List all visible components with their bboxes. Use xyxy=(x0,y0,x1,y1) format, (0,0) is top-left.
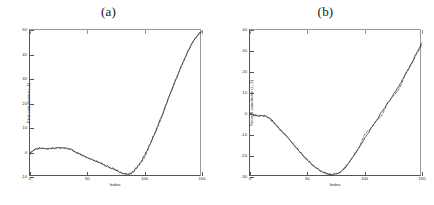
panel-b-y-tick xyxy=(250,156,254,157)
panel-a-x-tick-label: 100 xyxy=(141,177,148,181)
panel-a-series-fitted xyxy=(30,32,202,174)
panel-a-y-tick-label: 30 xyxy=(22,77,27,81)
panel-a-x-tick-top xyxy=(145,30,146,34)
panel-a-title: (a) xyxy=(0,4,217,20)
panel-a-x-tick-label: 150 xyxy=(199,177,206,181)
panel-a-x-tick-top xyxy=(202,30,203,34)
panel-a-x-tick-top xyxy=(30,30,31,34)
panel-b-y-tick xyxy=(250,93,254,94)
panel-a-y-tick-label: 50 xyxy=(22,28,27,32)
panel-b-x-tick-top xyxy=(365,30,366,34)
panel-b-y-tick-label: -30 xyxy=(241,175,247,179)
panel-b-y-axis-label: Second coordinate u(:,2) xyxy=(250,80,254,126)
panel-a-y-tick-label: 10 xyxy=(22,126,27,130)
panel-a-y-tick xyxy=(30,153,34,154)
panel-b: (b) Second coordinate u(:,2) Index 40302… xyxy=(217,0,434,205)
panel-a-y-tick xyxy=(30,79,34,80)
panel-a-y-tick xyxy=(30,55,34,56)
panel-a-y-tick xyxy=(30,128,34,129)
panel-b-x-tick-top xyxy=(307,30,308,34)
panel-b-plot-area: Second coordinate u(:,2) Index 403020100… xyxy=(249,29,421,176)
panel-b-y-tick-label: -10 xyxy=(241,133,247,137)
panel-b-y-tick xyxy=(250,51,254,52)
panel-b-x-tick-label: 150 xyxy=(419,177,426,181)
panel-a-curves xyxy=(30,30,202,177)
panel-a-y-axis-label: First coordinate u(:,1) xyxy=(27,83,31,123)
panel-a-y-tick-label: 0 xyxy=(25,150,27,154)
panel-a-x-tick-top xyxy=(87,30,88,34)
panel-b-x-axis-label: Index xyxy=(330,183,341,187)
figure-container: (a) First coordinate u(:,1) Index 504030… xyxy=(0,0,434,205)
panel-b-y-tick-label: 30 xyxy=(242,49,247,53)
panel-b-y-tick-label: -20 xyxy=(241,154,247,158)
panel-b-x-tick-label: 0 xyxy=(249,177,251,181)
panel-a: (a) First coordinate u(:,1) Index 504030… xyxy=(0,0,217,205)
panel-a-x-tick-label: 0 xyxy=(29,177,31,181)
panel-a-y-tick-label: -10 xyxy=(21,175,27,179)
panel-a-x-tick-label: 50 xyxy=(85,177,90,181)
panel-a-y-tick-label: 40 xyxy=(22,52,27,56)
panel-b-x-tick-label: 50 xyxy=(305,177,310,181)
panel-b-title: (b) xyxy=(217,4,434,20)
panel-b-y-tick xyxy=(250,114,254,115)
panel-b-y-tick xyxy=(250,135,254,136)
panel-b-x-tick-top xyxy=(422,30,423,34)
panel-a-plot-area: First coordinate u(:,1) Index 5040302010… xyxy=(29,29,201,176)
panel-b-curves xyxy=(250,30,422,177)
panel-b-x-tick-top xyxy=(250,30,251,34)
panel-b-y-tick-label: 20 xyxy=(242,70,247,74)
panel-b-y-tick xyxy=(250,72,254,73)
panel-a-y-tick-label: 20 xyxy=(22,101,27,105)
panel-b-series-fitted xyxy=(250,45,422,175)
panel-a-x-axis-label: Index xyxy=(110,183,121,187)
panel-b-series-observed xyxy=(250,43,422,175)
panel-b-x-tick-label: 100 xyxy=(361,177,368,181)
panel-b-y-tick-label: 0 xyxy=(245,112,247,116)
panel-b-y-tick-label: 10 xyxy=(242,91,247,95)
panel-b-y-tick-label: 40 xyxy=(242,28,247,32)
panel-a-y-tick xyxy=(30,104,34,105)
panel-a-series-observed xyxy=(30,31,202,175)
